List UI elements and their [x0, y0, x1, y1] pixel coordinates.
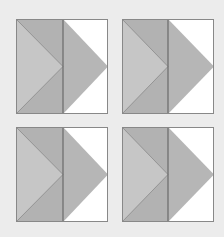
- arrow-pattern-icon: [122, 19, 214, 114]
- quilt-block-bottom-right: [122, 127, 214, 222]
- quilt-block-top-right: [122, 19, 214, 114]
- quilt-block-bottom-left: [16, 127, 108, 222]
- arrow-pattern-icon: [16, 127, 108, 222]
- arrow-pattern-icon: [16, 19, 108, 114]
- quilt-block-top-left: [16, 19, 108, 114]
- arrow-pattern-icon: [122, 127, 214, 222]
